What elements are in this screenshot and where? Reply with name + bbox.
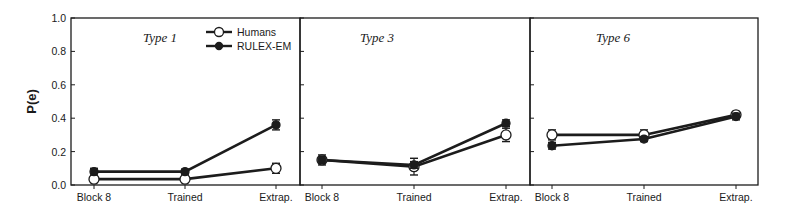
panel-frame	[530, 18, 758, 185]
y-axis-label: P(e)	[24, 89, 39, 114]
x-tick-label: Block 8	[535, 191, 570, 203]
x-tick-label: Extrap.	[259, 191, 292, 203]
series-line-rulex-em	[94, 125, 276, 172]
y-tick-label: 0.2	[51, 146, 66, 158]
panel-type-6: Block 8TrainedExtrap.Type 6	[530, 18, 758, 203]
legend-label: RULEX-EM	[237, 40, 291, 52]
legend: HumansRULEX-EM	[206, 26, 291, 52]
x-tick-label: Trained	[626, 191, 661, 203]
y-tick-label: 0.8	[51, 45, 66, 57]
x-tick-label: Block 8	[305, 191, 340, 203]
humans-marker	[271, 163, 281, 173]
panel-type-3: Block 8TrainedExtrap.Type 3	[300, 18, 530, 203]
humans-marker	[501, 130, 511, 140]
rulex-marker	[318, 156, 326, 164]
rulex-marker	[410, 161, 418, 169]
humans-marker	[547, 130, 557, 140]
x-tick-label: Trained	[396, 191, 431, 203]
legend-label: Humans	[237, 26, 276, 38]
y-tick-label: 0.0	[51, 179, 66, 191]
legend-open-circle-icon	[215, 28, 224, 37]
panel-title: Type 3	[360, 30, 395, 45]
x-tick-label: Extrap.	[489, 191, 522, 203]
legend-filled-circle-icon	[216, 43, 223, 50]
rulex-marker	[181, 168, 189, 176]
panel-title: Type 1	[143, 30, 177, 45]
rulex-marker	[732, 113, 740, 121]
rulex-marker	[90, 168, 98, 176]
y-tick-label: 0.4	[51, 112, 66, 124]
y-tick-label: 1.0	[51, 12, 66, 24]
rulex-marker	[548, 142, 556, 150]
x-tick-label: Extrap.	[719, 191, 752, 203]
y-tick-label: 0.6	[51, 79, 66, 91]
panel-title: Type 6	[596, 30, 631, 45]
rulex-marker	[272, 121, 280, 129]
chart-canvas: P(e)0.00.20.40.60.81.0Block 8TrainedExtr…	[0, 0, 789, 213]
rulex-marker	[502, 119, 510, 127]
x-tick-label: Block 8	[77, 191, 112, 203]
rulex-marker	[640, 135, 648, 143]
x-tick-label: Trained	[167, 191, 202, 203]
